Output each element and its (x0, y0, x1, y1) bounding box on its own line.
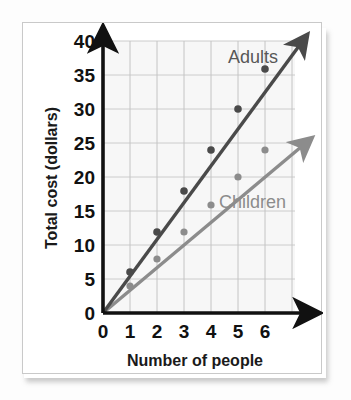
data-point (234, 173, 241, 180)
x-tick-label: 6 (260, 321, 271, 342)
data-point (180, 187, 188, 195)
series-label-children: Children (219, 192, 286, 212)
x-tick-label: 5 (233, 321, 244, 342)
series-label-adults: Adults (228, 47, 278, 67)
y-axis-tick-labels: 40 35 30 25 20 15 10 5 0 (74, 31, 96, 324)
x-axis-tick-labels: 0 1 2 3 4 5 6 (98, 321, 271, 342)
data-point (234, 105, 242, 113)
x-axis-title: Number of people (127, 352, 263, 369)
y-tick-label: 20 (74, 167, 95, 188)
line-chart: 40 35 30 25 20 15 10 5 0 0 1 2 3 4 (23, 23, 323, 375)
chart-card: 40 35 30 25 20 15 10 5 0 0 1 2 3 4 (22, 22, 322, 374)
x-tick-label: 0 (98, 321, 109, 342)
data-point (126, 268, 134, 276)
x-tick-label: 4 (206, 321, 217, 342)
y-tick-label: 30 (74, 99, 95, 120)
y-tick-label: 40 (74, 31, 95, 52)
data-point (153, 228, 161, 236)
y-tick-label: 15 (74, 201, 96, 222)
y-tick-label: 10 (74, 235, 95, 256)
y-tick-label: 35 (74, 65, 96, 86)
y-tick-label: 5 (84, 269, 95, 290)
y-tick-label: 0 (84, 303, 95, 324)
data-point (180, 228, 187, 235)
data-point (126, 282, 133, 289)
data-point (207, 201, 214, 208)
y-axis-title: Total cost (dollars) (43, 107, 60, 249)
x-tick-label: 2 (152, 321, 163, 342)
data-point (261, 146, 268, 153)
chart-page: 40 35 30 25 20 15 10 5 0 0 1 2 3 4 (0, 0, 351, 400)
x-tick-label: 3 (179, 321, 190, 342)
data-point (153, 255, 160, 262)
chart-plot-container: 40 35 30 25 20 15 10 5 0 0 1 2 3 4 (23, 23, 323, 375)
data-point (207, 146, 215, 154)
y-tick-label: 25 (74, 133, 96, 154)
x-tick-label: 1 (125, 321, 136, 342)
